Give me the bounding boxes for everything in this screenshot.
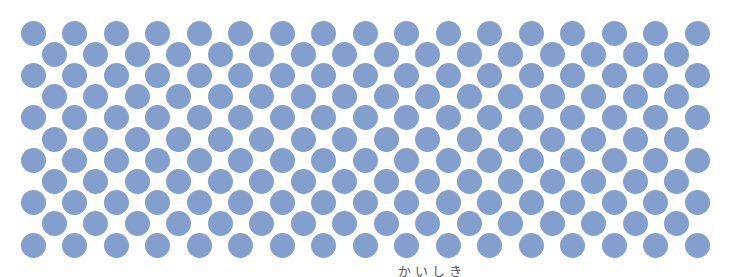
dot (540, 84, 565, 109)
dot (249, 169, 274, 194)
dot (62, 105, 87, 130)
dot (374, 127, 399, 152)
dot (104, 21, 129, 46)
dot (643, 148, 668, 173)
dot (602, 63, 627, 88)
dot (270, 190, 295, 215)
dot (353, 233, 378, 258)
dot (145, 233, 170, 258)
dot (457, 42, 482, 67)
dot (353, 105, 378, 130)
dot (664, 211, 689, 236)
dot (519, 148, 544, 173)
dot (311, 190, 336, 215)
dot (477, 148, 502, 173)
dot (560, 105, 585, 130)
dot (166, 42, 191, 67)
dot (560, 21, 585, 46)
dot (436, 148, 461, 173)
dot (519, 63, 544, 88)
dot (187, 105, 212, 130)
dot (21, 190, 46, 215)
dot (166, 169, 191, 194)
dot (311, 105, 336, 130)
dot (228, 233, 253, 258)
dot (560, 63, 585, 88)
dot (145, 105, 170, 130)
dot (187, 21, 212, 46)
dot (581, 211, 606, 236)
dot (685, 190, 710, 215)
dot (394, 190, 419, 215)
dot (602, 21, 627, 46)
dot (166, 127, 191, 152)
dot (415, 84, 440, 109)
dot (602, 105, 627, 130)
dot (623, 84, 648, 109)
dot (311, 148, 336, 173)
dot (457, 84, 482, 109)
dot (311, 63, 336, 88)
dot (21, 63, 46, 88)
dot (270, 148, 295, 173)
dot (145, 21, 170, 46)
dot (685, 105, 710, 130)
dot (249, 211, 274, 236)
dot (270, 233, 295, 258)
dot (187, 190, 212, 215)
dot (291, 127, 316, 152)
dot (477, 63, 502, 88)
dot (560, 190, 585, 215)
dot (436, 105, 461, 130)
dot (353, 148, 378, 173)
dot (42, 84, 67, 109)
dot (519, 105, 544, 130)
dot (208, 42, 233, 67)
dot (62, 63, 87, 88)
dot (436, 63, 461, 88)
dot (21, 233, 46, 258)
dot (602, 233, 627, 258)
dot (540, 127, 565, 152)
dot (249, 42, 274, 67)
dot-pattern (0, 0, 729, 277)
dot (623, 169, 648, 194)
dot (623, 42, 648, 67)
dot (415, 42, 440, 67)
dot (477, 233, 502, 258)
dot (685, 233, 710, 258)
dot (540, 211, 565, 236)
dot (664, 127, 689, 152)
caption-text: かいしき (398, 264, 466, 277)
dot (21, 21, 46, 46)
dot (664, 42, 689, 67)
dot (374, 42, 399, 67)
dot (249, 127, 274, 152)
dot (42, 42, 67, 67)
dot (664, 169, 689, 194)
dot (374, 84, 399, 109)
dot (643, 21, 668, 46)
dot (145, 148, 170, 173)
dot (332, 211, 357, 236)
dot (166, 211, 191, 236)
dot (187, 148, 212, 173)
dot (104, 233, 129, 258)
dot (291, 84, 316, 109)
dot (332, 127, 357, 152)
dot (83, 127, 108, 152)
dot (104, 105, 129, 130)
dot (477, 105, 502, 130)
dot (291, 169, 316, 194)
dot (104, 190, 129, 215)
dot (602, 190, 627, 215)
dot (228, 105, 253, 130)
dot (228, 21, 253, 46)
dot (83, 169, 108, 194)
dot (311, 233, 336, 258)
dot (83, 42, 108, 67)
dot (457, 127, 482, 152)
dot (477, 21, 502, 46)
dot (374, 211, 399, 236)
dot (166, 84, 191, 109)
